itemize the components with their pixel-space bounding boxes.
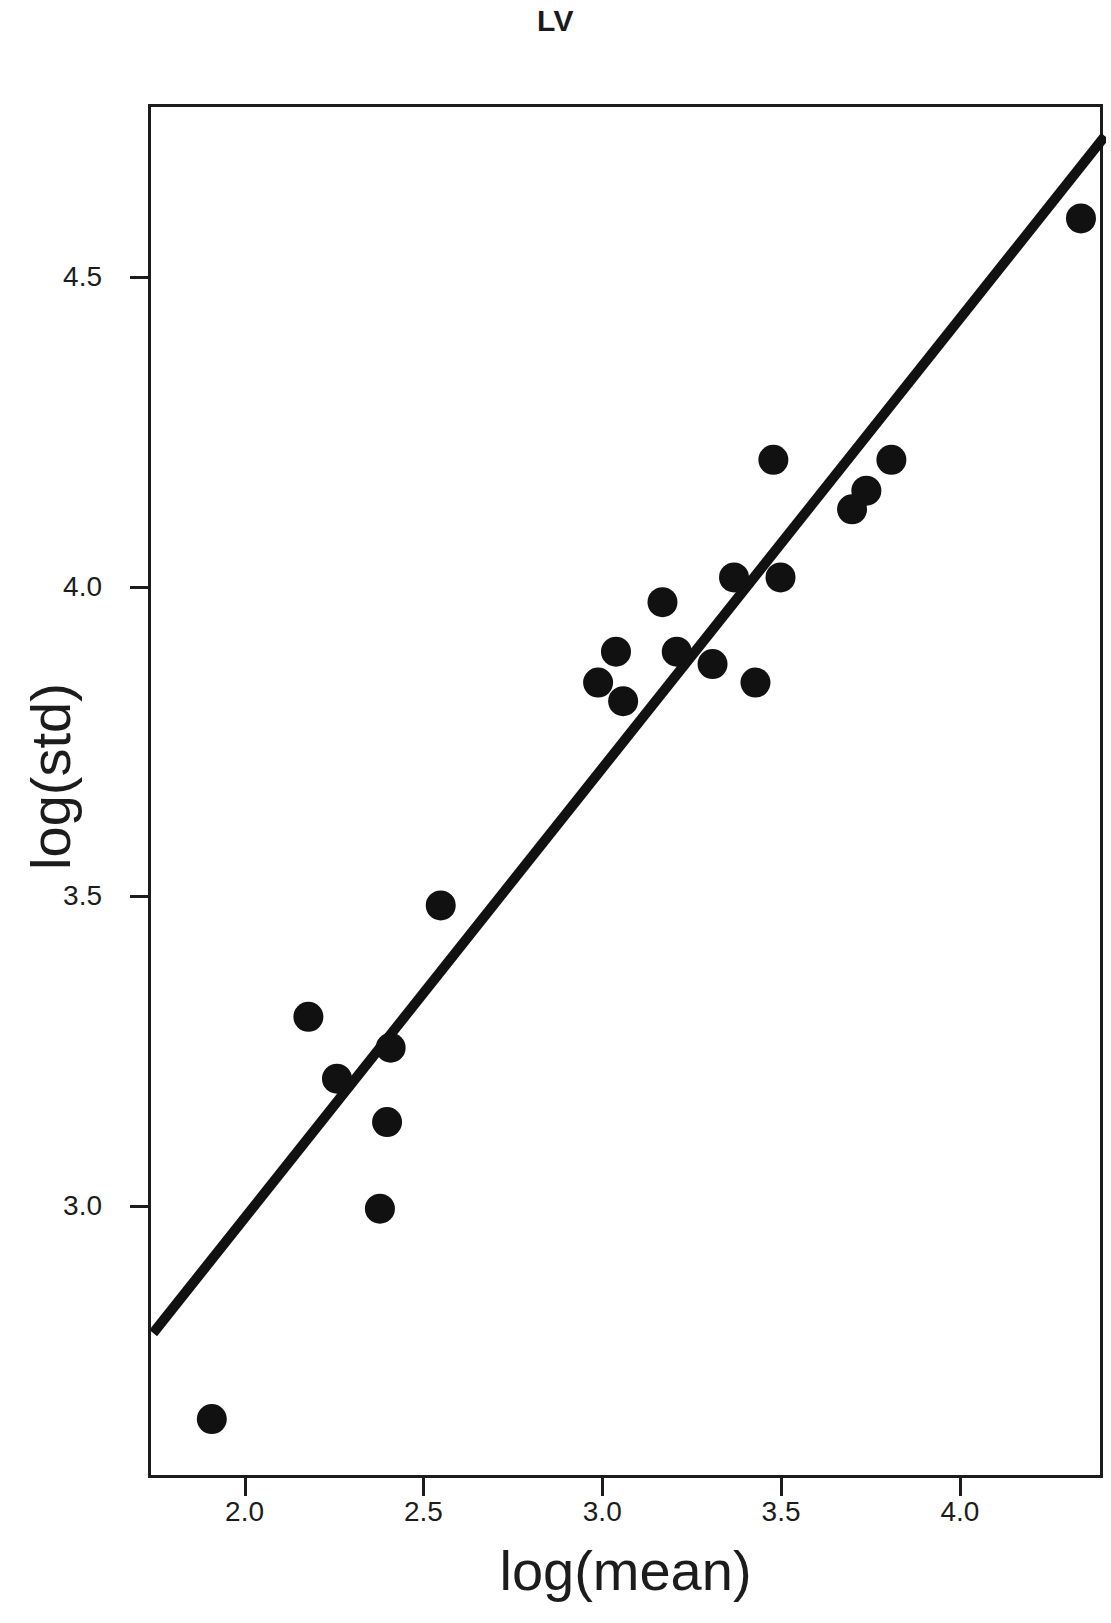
x-tick-label: 2.5 <box>404 1496 443 1528</box>
x-tick-mark <box>780 1478 783 1496</box>
x-tick-label: 2.0 <box>225 1496 264 1528</box>
x-tick-mark <box>422 1478 425 1496</box>
x-tick-label: 3.5 <box>762 1496 801 1528</box>
x-axis-ticks: 2.02.53.03.54.0 <box>0 0 1111 1623</box>
x-tick-mark <box>244 1478 247 1496</box>
x-tick-mark <box>959 1478 962 1496</box>
y-axis-label: log(std) <box>18 367 83 1187</box>
x-tick-mark <box>601 1478 604 1496</box>
x-tick-label: 4.0 <box>940 1496 979 1528</box>
chart-figure: LV 3.03.54.04.5 2.02.53.03.54.0 log(mean… <box>0 0 1111 1623</box>
x-tick-label: 3.0 <box>583 1496 622 1528</box>
x-axis-label: log(mean) <box>148 1538 1103 1603</box>
